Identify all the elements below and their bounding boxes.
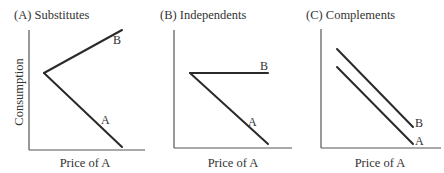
substitutes-independents-complements-diagram: Consumption (A) Substitutes B A Price of… [0, 0, 444, 173]
x-axis-label: Price of A [208, 156, 259, 170]
curve-label-b: B [260, 59, 268, 73]
curve-label-a: A [248, 115, 257, 129]
panel-complements: (C) Complements B A Price of A [306, 8, 441, 170]
y-axis-label: Consumption [12, 58, 26, 126]
x-axis-label: Price of A [60, 156, 111, 170]
panel-title: (B) Independents [160, 8, 247, 22]
curve-a [337, 67, 413, 144]
curve-label-a: A [415, 134, 424, 148]
curve-b [44, 30, 122, 73]
panel-title: (A) Substitutes [14, 8, 89, 22]
x-axis-label: Price of A [355, 156, 406, 170]
curve-label-b: B [113, 33, 121, 47]
curve-label-a: A [101, 113, 110, 127]
curve-b [337, 49, 413, 127]
panel-substitutes: (A) Substitutes B A Price of A [14, 8, 145, 170]
panel-title: (C) Complements [306, 8, 395, 22]
panel-independents: (B) Independents B A Price of A [160, 8, 292, 170]
curve-a [190, 73, 268, 144]
curve-label-b: B [415, 116, 423, 130]
curve-a [44, 73, 122, 147]
